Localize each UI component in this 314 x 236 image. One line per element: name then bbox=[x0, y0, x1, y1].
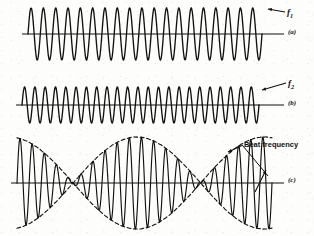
panel-label-a: (a) bbox=[288, 29, 296, 36]
panel-label-b: (b) bbox=[288, 100, 296, 107]
waveform-canvas bbox=[0, 0, 314, 236]
beat-frequency-label: Beat frequency bbox=[244, 141, 298, 149]
panel-label-c: (c) bbox=[288, 177, 296, 184]
waveform-traces bbox=[17, 8, 272, 229]
label-f1: f1 bbox=[287, 8, 293, 19]
label-f2-subscript: 2 bbox=[291, 84, 294, 90]
label-f2: f2 bbox=[288, 79, 294, 90]
beat-frequency-figure: f1 (a) f2 (b) Beat frequency (c) bbox=[0, 0, 314, 236]
label-f1-subscript: 1 bbox=[290, 13, 293, 19]
